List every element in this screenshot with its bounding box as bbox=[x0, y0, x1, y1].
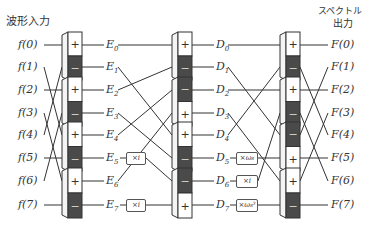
stage1-output-4: E4 bbox=[106, 129, 119, 145]
output-label-3: F(3) bbox=[331, 107, 354, 119]
svg-text:+: + bbox=[288, 38, 297, 51]
svg-text:−: − bbox=[288, 128, 297, 141]
stage2-output-3: D3 bbox=[216, 107, 229, 123]
multiplier-stage1-7: ×i bbox=[126, 199, 146, 212]
stage2-output-7: D7 bbox=[216, 199, 229, 215]
svg-text:+: + bbox=[180, 38, 189, 51]
svg-text:+: + bbox=[180, 128, 189, 141]
stage1-output-3: E3 bbox=[106, 107, 119, 123]
input-label-7: f(7) bbox=[18, 199, 38, 211]
input-label-0: f(0) bbox=[18, 39, 38, 51]
input-label-1: f(1) bbox=[18, 61, 38, 73]
input-label-4: f(4) bbox=[18, 129, 38, 141]
svg-text:+: + bbox=[288, 83, 297, 96]
svg-text:+: + bbox=[70, 175, 79, 188]
input-label-3: f(3) bbox=[18, 107, 38, 119]
stage1-output-0: E0 bbox=[106, 39, 119, 55]
stage1-output-1: E1 bbox=[106, 61, 119, 77]
svg-text:−: − bbox=[70, 153, 79, 166]
svg-text:−: − bbox=[70, 108, 79, 121]
stage2-output-5: D5 bbox=[216, 152, 229, 168]
svg-text:−: − bbox=[180, 83, 189, 96]
output-label-4: F(4) bbox=[331, 129, 354, 141]
multiplier-stage1-5: ×i bbox=[126, 152, 146, 165]
svg-text:+: + bbox=[180, 108, 189, 121]
stage2-output-6: D6 bbox=[216, 175, 229, 191]
svg-text:−: − bbox=[180, 153, 189, 166]
multiplier-stage2-7: ×ω₈³ bbox=[236, 199, 258, 212]
stage1-output-2: E2 bbox=[106, 84, 119, 100]
svg-text:+: + bbox=[180, 200, 189, 213]
svg-text:−: − bbox=[288, 200, 297, 213]
input-label-2: f(2) bbox=[18, 84, 38, 96]
stage1-output-7: E7 bbox=[106, 199, 119, 215]
stage2-output-4: D4 bbox=[216, 129, 229, 145]
output-label-5: F(5) bbox=[331, 152, 354, 164]
input-label-6: f(6) bbox=[18, 175, 38, 187]
svg-text:−: − bbox=[70, 200, 79, 213]
svg-text:−: − bbox=[180, 175, 189, 188]
stage1-output-6: E6 bbox=[106, 175, 119, 191]
output-label-1: F(1) bbox=[331, 61, 354, 73]
wires: +−+−+−+−−++−+−+−−++−−++− bbox=[0, 0, 374, 231]
input-label-5: f(5) bbox=[18, 152, 38, 164]
svg-text:+: + bbox=[288, 153, 297, 166]
output-header-line1: スペクトル bbox=[318, 6, 362, 17]
input-header: 波形入力 bbox=[6, 16, 50, 27]
svg-text:+: + bbox=[70, 83, 79, 96]
multiplier-stage2-5: ×ω₈ bbox=[236, 152, 258, 165]
stage2-output-2: D2 bbox=[216, 84, 229, 100]
multiplier-stage2-6: ×i bbox=[236, 175, 258, 188]
svg-text:−: − bbox=[180, 62, 189, 75]
output-label-0: F(0) bbox=[331, 39, 354, 51]
svg-text:+: + bbox=[288, 175, 297, 188]
output-label-7: F(7) bbox=[331, 199, 354, 211]
stage1-output-5: E5 bbox=[106, 152, 119, 168]
svg-text:−: − bbox=[288, 108, 297, 121]
stage2-output-1: D1 bbox=[216, 61, 229, 77]
svg-text:−: − bbox=[70, 62, 79, 75]
svg-text:+: + bbox=[70, 38, 79, 51]
output-label-6: F(6) bbox=[331, 175, 354, 187]
output-header-line2: 出力 bbox=[333, 18, 353, 29]
stage2-output-0: D0 bbox=[216, 39, 229, 55]
fft-butterfly-diagram: +−+−+−+−−++−+−+−−++−−++− 波形入力 スペクトル 出力 f… bbox=[0, 0, 374, 231]
output-label-2: F(2) bbox=[331, 84, 354, 96]
svg-text:+: + bbox=[70, 128, 79, 141]
svg-text:−: − bbox=[288, 62, 297, 75]
